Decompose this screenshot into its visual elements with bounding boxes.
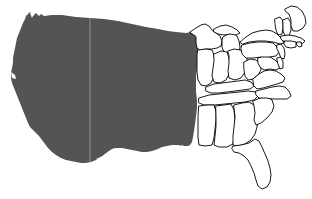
state-illinois [197,49,215,86]
state-alabama [214,104,235,147]
us-map-svg [0,0,312,199]
state-rhode-island [297,42,302,47]
state-new-hampshire [283,18,291,36]
state-connecticut [284,41,296,48]
state-indiana [212,51,230,83]
state-pennsylvania [241,42,279,58]
us-map-figure [0,0,312,199]
state-mississippi [198,105,216,146]
